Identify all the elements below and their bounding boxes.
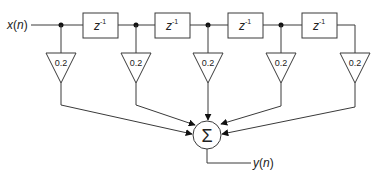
fir-filter-diagram: x(n) z-1 z-1 z-1 z-1 0.2 0.2 0.2 <box>0 0 381 177</box>
delay-block-4: z-1 <box>302 13 337 38</box>
delay-block-3: z-1 <box>228 13 263 38</box>
svg-text:0.2: 0.2 <box>130 58 143 68</box>
sum-input-wire-5 <box>222 83 355 134</box>
gain-block-1: 0.2 <box>46 53 76 83</box>
svg-text:0.2: 0.2 <box>202 58 215 68</box>
delay-block-2: z-1 <box>155 13 190 38</box>
sum-input-wire-4 <box>221 83 281 124</box>
sum-input-wire-2 <box>136 83 195 125</box>
output-label: y(n) <box>252 156 274 170</box>
svg-text:0.2: 0.2 <box>55 58 68 68</box>
delay-block-1: z-1 <box>83 13 118 38</box>
delay-wire-4 <box>337 25 355 53</box>
gain-block-4: 0.2 <box>266 53 296 83</box>
sigma-icon: Σ <box>201 126 212 146</box>
gain-block-2: 0.2 <box>121 53 151 83</box>
svg-text:0.2: 0.2 <box>275 58 288 68</box>
svg-text:0.2: 0.2 <box>349 58 362 68</box>
summer-node: Σ <box>193 121 221 149</box>
output-wire <box>207 149 251 163</box>
gain-block-3: 0.2 <box>193 53 223 83</box>
input-label: x(n) <box>6 18 28 32</box>
gain-block-5: 0.2 <box>340 53 370 83</box>
sum-input-wire-1 <box>61 83 192 134</box>
